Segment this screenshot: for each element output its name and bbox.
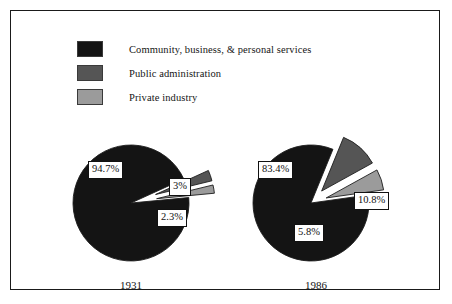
legend-swatch-public-administration: [77, 65, 103, 81]
legend-label-public-administration: Public administration: [129, 68, 221, 79]
pie-slice-label-1986-public-administration: 10.8%: [354, 192, 389, 210]
legend-item-public-administration: Public administration: [77, 61, 397, 85]
pie-chart-figure: Community, business, & personal services…: [0, 0, 452, 304]
legend-label-private-industry: Private industry: [129, 92, 197, 103]
pie-chart-1931: [67, 131, 247, 276]
legend-swatch-private-industry: [77, 89, 103, 105]
pie-slice-label-1986-private-industry: 5.8%: [294, 224, 324, 242]
legend-item-private-industry: Private industry: [77, 85, 397, 109]
pie-1931-svg: [67, 131, 247, 276]
pie-slice-label-1931-private-industry: 2.3%: [157, 209, 187, 227]
pie-slice-label-1931-public-administration: 3%: [169, 178, 191, 196]
legend-swatch-community: [77, 41, 103, 57]
year-label-1986: 1986: [241, 279, 391, 291]
pie-1986-svg: [247, 131, 432, 276]
pie-slice-label-1986-community: 83.4%: [258, 161, 293, 179]
figure-frame: Community, business, & personal services…: [10, 10, 440, 290]
legend: Community, business, & personal services…: [77, 37, 397, 109]
pie-chart-1986: [247, 131, 432, 276]
pie-slice-label-1931-community: 94.7%: [88, 161, 123, 179]
year-label-1931: 1931: [56, 279, 206, 291]
legend-item-community: Community, business, & personal services: [77, 37, 397, 61]
legend-label-community: Community, business, & personal services: [129, 44, 311, 55]
